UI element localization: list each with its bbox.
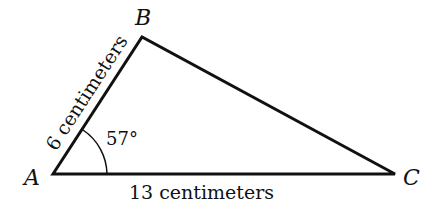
side-label-ac: 13 centimeters — [129, 181, 274, 203]
vertex-label-a: A — [22, 165, 40, 190]
angle-arc-a — [83, 130, 107, 174]
vertex-label-c: C — [403, 165, 420, 190]
angle-label-a: 57° — [106, 128, 138, 149]
vertex-label-b: B — [134, 5, 151, 30]
triangle-diagram: B A C 6 centimeters 13 centimeters 57° — [0, 0, 445, 211]
